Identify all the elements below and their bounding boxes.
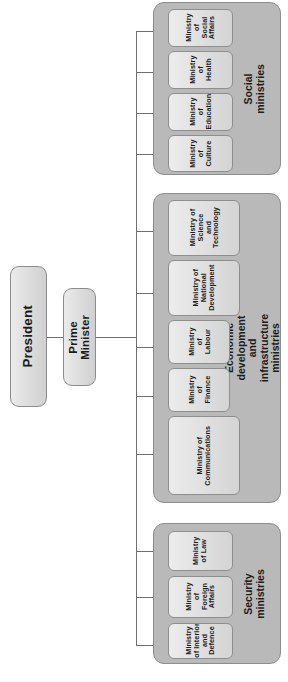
group-economic-development-and-infrastructure-ministries: Economic development and infrastructure … [153, 193, 281, 503]
node-ministry-of-education-label: Ministry of Education [189, 94, 212, 130]
node-ministry-of-health[interactable]: Ministry of Health [168, 51, 233, 89]
node-ministry-of-culture[interactable]: Ministry of Culture [168, 135, 233, 172]
node-ministry-of-science-and-technology-label: Ministry of Science and Technology [188, 208, 219, 249]
node-ministry-of-national-development[interactable]: Ministry of National Development [168, 260, 240, 316]
group-security-ministries: Security ministries Ministry of Law Mini… [153, 523, 281, 664]
node-ministry-of-communications-label: Ministry of Communications [196, 426, 212, 486]
org-chart-canvas: President Prime Minister Social ministri… [0, 0, 288, 682]
node-ministry-of-culture-label: Ministry of Culture [189, 139, 212, 167]
node-ministry-of-law[interactable]: Ministry of Law [168, 531, 233, 571]
connector-prime-minister-to-trunk [96, 337, 137, 338]
node-ministry-of-finance[interactable]: Ministry of Finance [168, 368, 230, 412]
node-ministry-of-national-development-label: Ministry of National Development [192, 265, 215, 311]
connector-president-to-prime-minister [47, 337, 64, 338]
node-ministry-of-social-affairs-label: Ministry of Social Affairs [185, 14, 216, 42]
node-ministry-of-labour[interactable]: Ministry of Labour [168, 320, 230, 364]
group-security-ministries-label: Security ministries [243, 569, 266, 619]
node-ministry-of-foreign-affairs[interactable]: Ministry of Foreign Affairs [168, 576, 233, 618]
group-social-ministries: Social ministries Ministry of Social Aff… [153, 2, 281, 175]
node-president[interactable]: President [10, 266, 47, 407]
node-ministry-of-social-affairs[interactable]: Ministry of Social Affairs [168, 9, 233, 47]
node-ministry-of-finance-label: Ministry of Finance [187, 376, 210, 404]
node-ministry-of-health-label: Ministry of Health [189, 56, 212, 84]
node-ministry-of-foreign-affairs-label: Ministry of Foreign Affairs [185, 583, 216, 611]
node-president-label: President [21, 305, 36, 367]
connector-main-trunk [136, 31, 137, 646]
group-economic-development-and-infrastructure-ministries-label: Economic development and infrastructure … [224, 314, 282, 382]
node-ministry-of-interior-and-defence[interactable]: Ministry of Interior and Defence [168, 623, 233, 659]
node-ministry-of-education[interactable]: Ministry of Education [168, 93, 233, 131]
group-social-ministries-label: Social ministries [243, 64, 266, 114]
node-prime-minister[interactable]: Prime Minister [63, 288, 96, 386]
node-ministry-of-science-and-technology[interactable]: Ministry of Science and Technology [168, 200, 240, 256]
node-ministry-of-law-label: Ministry of Law [193, 537, 209, 565]
node-ministry-of-labour-label: Ministry of Labour [187, 328, 210, 356]
node-prime-minister-label: Prime Minister [67, 315, 92, 360]
node-ministry-of-communications[interactable]: Ministry of Communications [168, 416, 240, 495]
node-ministry-of-interior-and-defence-label: Ministry of Interior and Defence [185, 624, 216, 659]
